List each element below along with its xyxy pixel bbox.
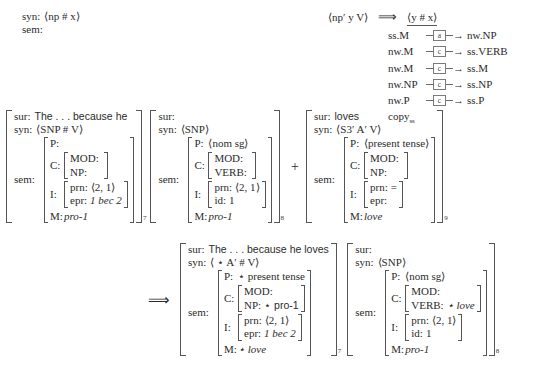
proplet-9-body: sur: loves syn: ⟨S3′ A′ V⟩ sem: P: ⟨pres… [314,110,435,223]
i-attr-row: prn: ⟨2, 1⟩ [244,314,296,327]
proplet-result-8-body: sur: syn: ⟨SNP⟩ sem: P: ⟨nom sg⟩ [355,243,486,356]
bracket-left [64,152,68,179]
p-row: P: ⟨present tense⟩ [350,137,429,150]
sur-value: The . . . because he loves [209,243,329,256]
c-attr-row: MOD: [244,285,299,298]
syn-value: ⟨S3′ A′ V⟩ [336,123,381,136]
c-inner-body: MOD: NP: [370,152,402,179]
matrix-subscript: 7 [338,348,342,356]
bracket-right [262,181,266,208]
i-block: I: prn: = epr: [350,181,429,208]
i-attr-key: prn: [370,181,388,194]
sur-row: sur: The . . . because he loves [188,243,329,256]
i-label: I: [194,188,208,201]
transfer-target: ss.VERB [467,44,508,59]
p-label: P: [50,137,64,150]
transfer-box-label: a [433,30,446,41]
m-value: pro-1 [64,210,88,223]
i-attr-val: 1 [229,194,235,207]
c-block: C: MOD: NP: [350,152,429,179]
derivation-row-output: ⟹ sur: The . . . because he loves syn: ⟨… [148,243,499,356]
sem-row: sem: P: ⟨nom sg⟩ C: [158,137,271,223]
proplet-matrix-9: sur: loves syn: ⟨S3′ A′ V⟩ sem: P: ⟨pres… [306,110,448,223]
c-attr-key: VERB: [411,299,443,312]
c-inner-body: MOD: NP: [70,152,102,179]
i-attr-row: epr: 1 bec 2 [70,194,122,207]
i-attr-key: prn: [70,181,88,194]
c-block: C: MOD: VERB: [391,285,480,312]
i-attr-row: prn: ⟨2, 1⟩ [411,314,456,327]
p-row: P: ⟨nom sg⟩ [391,270,480,283]
bracket-left [238,314,242,341]
syn-row: syn: ⟨ ⋆ A′ # V⟩ [188,256,329,269]
c-attr-row: NP: [70,166,102,179]
transfer-dash-right [446,35,453,36]
transfer-target: nw.NP [467,28,497,43]
p-row: P: ⟨nom sg⟩ [194,137,265,150]
transfer-source: ss.M [388,28,426,43]
i-attr-val: = [391,181,397,194]
header-sem-label: sem: [22,23,43,36]
transfer-dash-right [446,51,453,52]
sem-row: sem: P: ⟨nom sg⟩ C: [355,270,486,356]
i-attr-val: 1 bec 2 [90,194,122,207]
bracket-left [208,181,212,208]
transfer-arrow-icon: → [453,46,464,57]
transfer-dash-left [426,35,433,36]
transfer-arrow-icon: → [453,95,464,106]
i-attr-row: prn: = [370,181,397,194]
i-attr-key: prn: [244,314,262,327]
m-row: M: pro-1 [194,210,265,223]
double-arrow-icon: ⟹ [378,8,397,26]
i-attr-key: prn: [214,181,232,194]
i-block: I: prn: ⟨2, 1⟩ epr: [50,181,128,208]
c-attr-key: MOD: [70,152,99,165]
c-attr-row: VERB: ⋆ love [411,299,474,312]
sur-value: The . . . because he [35,110,128,123]
m-row: M: ⋆ love [224,343,305,356]
i-attr-row: epr: [370,194,397,207]
i-attr-row: prn: ⟨2, 1⟩ [70,181,122,194]
bracket-left [238,285,242,312]
transfer-source: nw.M [388,61,426,76]
header-left-feature-block: syn: ⟨np # x⟩ sem: [22,10,80,37]
i-block: I: prn: ⟨2, 1⟩ epr: [224,314,305,341]
transfer-rule-row: nw.P c → ss.P [388,93,508,108]
derivation-row-input: sur: The . . . because he syn: ⟨SNP # V⟩… [6,110,448,223]
proplet-matrix-result-7: sur: The . . . because he loves syn: ⟨ ⋆… [180,243,341,356]
c-label: C: [350,159,364,172]
m-label: M: [391,343,405,356]
c-block: C: MOD: NP: [50,152,128,179]
bracket-right [489,243,495,356]
header-syn-value: ⟨np # x⟩ [44,10,80,23]
bracket-right [104,152,108,179]
m-label: M: [224,343,238,356]
i-attr-key: epr: [370,194,387,207]
sur-row: sur: The . . . because he [14,110,134,123]
rewrite-rule-rhs: ⟨y # x⟩ [407,10,437,26]
sur-label: sur: [188,243,205,256]
matrix-subscript: 7 [143,215,147,223]
i-attr-val: 1 [426,327,432,340]
syn-label: syn: [188,256,206,269]
sem-label: sem: [158,173,185,186]
i-attr-row: epr: 1 bec 2 [244,327,296,340]
sem-label: sem: [14,173,41,186]
rewrite-rule-lhs: ⟨np′ y V⟩ [328,10,368,25]
transfer-rule-row: nw.M c → ss.M [388,61,508,76]
c-inner-matrix: MOD: VERB: ⋆ love [405,285,480,312]
header-sem-row: sem: [22,23,80,36]
transfer-dash-left [426,84,433,85]
sur-label: sur: [355,243,372,256]
sem-inner-matrix: P: ⟨nom sg⟩ C: MOD: [385,270,486,356]
transfer-dash-right [446,100,453,101]
c-inner-matrix: MOD: NP: ⋆ pro-1 [238,285,305,312]
c-attr-key: MOD: [244,285,273,298]
transfer-arrow-icon: → [453,79,464,90]
m-value: pro-1 [208,210,232,223]
m-row: M: pro-1 [391,343,480,356]
bracket-right [252,152,256,179]
i-label: I: [224,321,238,334]
sur-row: sur: loves [314,110,435,123]
i-attr-row: id: 1 [214,194,259,207]
